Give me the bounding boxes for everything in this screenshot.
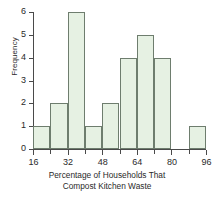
plot-area: 0123456 163248648096: [33, 12, 206, 150]
x-tick-major: 32: [68, 150, 69, 155]
x-tick-label: 16: [28, 157, 38, 168]
histogram-bar: [85, 126, 102, 149]
x-tick-label: 32: [63, 157, 73, 168]
y-tick-label: 6: [21, 6, 26, 17]
histogram-bar: [120, 58, 137, 149]
x-tick-major: 16: [33, 150, 34, 155]
y-tick-label: 0: [21, 143, 26, 154]
x-tick-minor: [120, 150, 121, 154]
y-tick-label: 4: [21, 52, 26, 63]
y-tick: 6: [29, 12, 33, 13]
histogram-bar: [102, 103, 119, 149]
x-tick-major: 64: [137, 150, 138, 155]
y-tick: 3: [29, 81, 33, 82]
caption-line-1: Percentage of Households That: [0, 170, 214, 181]
x-tick-label: 64: [132, 157, 142, 168]
histogram-bar: [189, 126, 206, 149]
y-tick: 5: [29, 35, 33, 36]
x-tick-minor: [189, 150, 190, 154]
y-tick: 1: [29, 126, 33, 127]
histogram-bar: [68, 12, 85, 149]
x-axis-caption: Percentage of Households That Compost Ki…: [0, 170, 214, 192]
y-tick-label: 5: [21, 29, 26, 40]
caption-line-2: Compost Kitchen Waste: [0, 181, 214, 192]
histogram-bar: [50, 103, 67, 149]
histogram-bar: [33, 126, 50, 149]
histogram-bar: [137, 35, 154, 149]
x-tick-major: 96: [206, 150, 207, 155]
y-tick-label: 1: [21, 120, 26, 131]
y-tick-label: 2: [21, 97, 26, 108]
x-tick-major: 80: [171, 150, 172, 155]
y-tick-label: 3: [21, 75, 26, 86]
x-tick-label: 80: [167, 157, 177, 168]
x-tick-minor: [154, 150, 155, 154]
y-axis-label: Frequency: [10, 16, 19, 98]
x-tick-label: 48: [98, 157, 108, 168]
x-tick-minor: [50, 150, 51, 154]
x-tick-major: 48: [102, 150, 103, 155]
x-tick-minor: [85, 150, 86, 154]
y-tick: 4: [29, 58, 33, 59]
histogram-figure: Frequency 0123456 163248648096 Percentag…: [0, 0, 214, 197]
histogram-bar: [154, 58, 171, 149]
x-tick-label: 96: [201, 157, 211, 168]
y-tick: 2: [29, 103, 33, 104]
